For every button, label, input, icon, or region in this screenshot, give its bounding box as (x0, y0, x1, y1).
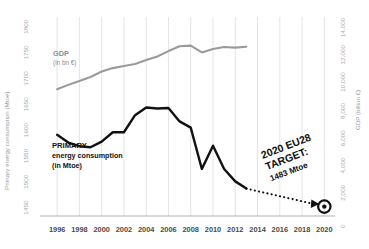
pec-label-line2: energy consumption (52, 151, 123, 160)
y-axis-left-tick-label: 1650 (22, 97, 29, 112)
line-chart: 14501500155016001650170017501800 02,0004… (0, 0, 369, 249)
x-axis-tick-label: 2016 (272, 225, 288, 234)
x-axis-tick-label: 2002 (116, 225, 132, 234)
pec-label-title: PRIMARY (52, 141, 87, 150)
chart-container: 14501500155016001650170017501800 02,0004… (0, 0, 369, 249)
y-axis-left-title: Primary energy consumption (Mtoe) (3, 92, 10, 190)
y-axis-left-tick-label: 1600 (22, 123, 29, 138)
x-axis-tick-label: 2014 (249, 225, 266, 234)
gdp-label-unit: (in bn €) (53, 59, 76, 67)
x-axis-tick-label: 2008 (183, 225, 199, 234)
y-axis-left-tick-label: 1550 (22, 148, 29, 163)
gdp-label-title: GDP (53, 49, 69, 58)
y-axis-right-tick-label: 12,000 (339, 44, 346, 64)
y-axis-right-tick-label: 6,000 (339, 130, 346, 146)
x-axis-tick-label: 2010 (205, 225, 221, 234)
x-axis-tick-label: 2020 (316, 225, 332, 234)
x-axis-tick-label: 1998 (71, 225, 87, 234)
y-axis-right-tick-label: 10,000 (339, 72, 346, 92)
y-axis-left-tick-label: 1450 (22, 200, 29, 215)
y-axis-right-tick-label: 2,000 (339, 184, 346, 200)
x-axis-tick-label: 1996 (49, 225, 65, 234)
x-axis-tick-label: 2006 (160, 225, 176, 234)
y-axis-left-tick-label: 1700 (22, 71, 29, 86)
y-axis-right-tick-label: 0 (339, 224, 346, 228)
pec-label-line3: (in Mtoe) (52, 161, 83, 170)
y-axis-left-tick-label: 1500 (22, 174, 29, 189)
x-axis-tick-label: 2012 (227, 225, 243, 234)
y-axis-left-tick-label: 1800 (22, 19, 29, 34)
x-axis-tick-label: 2004 (138, 225, 155, 234)
y-axis-right-tick-label: 14,000 (339, 17, 346, 37)
y-axis-right-title: GDP (billion €) (354, 90, 361, 130)
y-axis-right-tick-label: 8,000 (339, 103, 346, 119)
y-axis-left-tick-label: 1750 (22, 45, 29, 60)
x-axis-tick-label: 2000 (93, 225, 109, 234)
x-axis-tick-label: 2018 (294, 225, 310, 234)
y-axis-right-tick-label: 4,000 (339, 157, 346, 173)
